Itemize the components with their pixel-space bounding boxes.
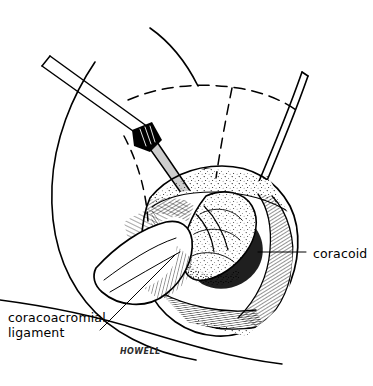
label-coracoacromial-ligament: coracoacromialligament	[8, 310, 106, 340]
label-coracoid: coracoid	[313, 246, 367, 261]
artist-signature: HOWELL	[120, 347, 160, 356]
dashed-acromion-landmark	[128, 85, 296, 110]
label-ligament-line1: coracoacromial	[8, 310, 106, 325]
dashed-clavicle-landmark	[216, 88, 232, 178]
surgical-elevator-instrument	[42, 56, 148, 136]
label-ligament-line2: ligament	[8, 325, 64, 340]
surgical-illustration-figure: coracoacromialligament coracoid HOWELL	[0, 0, 373, 386]
